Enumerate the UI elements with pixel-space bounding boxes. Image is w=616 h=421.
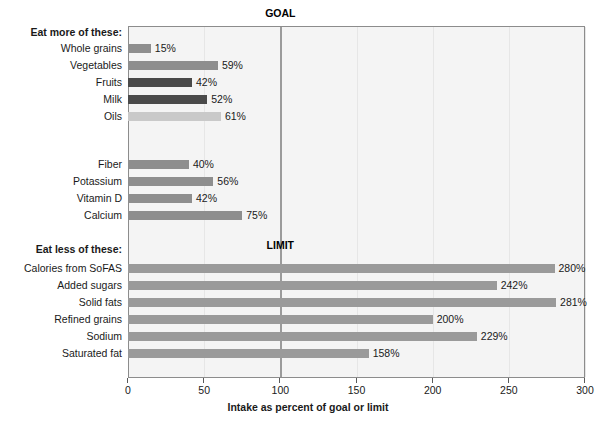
bar-value-label: 52% [211, 94, 232, 104]
bar [128, 160, 189, 169]
bar [128, 177, 213, 186]
chart-container: GOAL LIMIT Eat more of these:Whole grain… [0, 0, 616, 421]
bar [128, 332, 477, 341]
x-axis-tick [127, 378, 128, 383]
x-axis-tick-label: 0 [108, 385, 148, 396]
bar [128, 95, 207, 104]
bar-value-label: 200% [437, 314, 464, 324]
y-axis-tick-label: Vitamin D [2, 193, 122, 204]
gridline [433, 27, 434, 377]
x-axis-tick [584, 378, 585, 383]
bar-value-label: 15% [155, 43, 176, 53]
y-axis-tick-label: Solid fats [2, 297, 122, 308]
y-axis-tick-label: Fiber [2, 159, 122, 170]
gridline [585, 27, 586, 377]
y-axis-tick-label: Calcium [2, 210, 122, 221]
x-axis-tick [356, 378, 357, 383]
bar-value-label: 42% [196, 193, 217, 203]
x-axis-tick-label: 250 [489, 385, 529, 396]
bar-value-label: 158% [373, 348, 400, 358]
x-axis-tick [203, 378, 204, 383]
bar-value-label: 40% [193, 159, 214, 169]
y-axis-group-header: Eat more of these: [2, 27, 122, 38]
bar [128, 112, 221, 121]
bar [128, 281, 497, 290]
y-axis-tick-label: Calories from SoFAS [2, 263, 122, 274]
bar [128, 61, 218, 70]
x-axis-tick-label: 50 [184, 385, 224, 396]
y-axis-tick-label: Milk [2, 94, 122, 105]
bar [128, 211, 242, 220]
bar [128, 44, 151, 53]
bar [128, 298, 556, 307]
x-axis-tick-label: 300 [565, 385, 605, 396]
x-axis-tick [432, 378, 433, 383]
y-axis-tick-label: Refined grains [2, 314, 122, 325]
x-axis-tick [279, 378, 280, 383]
y-axis-tick-label: Oils [2, 111, 122, 122]
y-axis-tick-label: Potassium [2, 176, 122, 187]
bar-value-label: 229% [481, 331, 508, 341]
bar-value-label: 281% [560, 297, 587, 307]
x-axis-tick [508, 378, 509, 383]
bar [128, 349, 369, 358]
bar [128, 264, 555, 273]
bar-value-label: 242% [501, 280, 528, 290]
gridline [509, 27, 510, 377]
x-axis-title: Intake as percent of goal or limit [0, 402, 616, 413]
goal-annotation: GOAL [240, 8, 320, 19]
y-axis-tick-label: Saturated fat [2, 348, 122, 359]
y-axis-tick-label: Vegetables [2, 60, 122, 71]
bar-value-label: 75% [246, 210, 267, 220]
bar [128, 78, 192, 87]
bar-value-label: 280% [559, 263, 586, 273]
limit-annotation: LIMIT [240, 240, 320, 251]
bar [128, 194, 192, 203]
bar-value-label: 61% [225, 111, 246, 121]
y-axis-tick-label: Sodium [2, 331, 122, 342]
bar [128, 315, 433, 324]
x-axis-tick-label: 200 [413, 385, 453, 396]
gridline [357, 27, 358, 377]
x-axis-tick-label: 100 [260, 385, 300, 396]
bar-value-label: 56% [217, 176, 238, 186]
y-axis-tick-label: Fruits [2, 77, 122, 88]
reference-line-100 [280, 27, 282, 377]
y-axis-tick-label: Added sugars [2, 280, 122, 291]
y-axis-group-header: Eat less of these: [2, 244, 122, 255]
y-axis-tick-label: Whole grains [2, 43, 122, 54]
bar-value-label: 42% [196, 77, 217, 87]
bar-value-label: 59% [222, 60, 243, 70]
x-axis-tick-label: 150 [337, 385, 377, 396]
